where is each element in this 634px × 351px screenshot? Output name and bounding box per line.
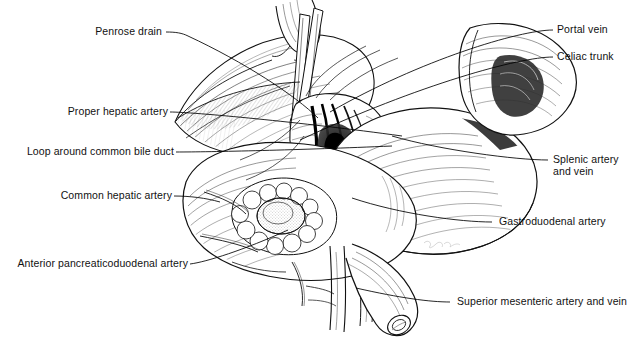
label-anterior-pancreaticoduodenal-artery-text: Anterior pancreaticoduodenal artery xyxy=(17,257,188,269)
label-penrose-drain-text: Penrose drain xyxy=(95,25,162,37)
label-common-hepatic-artery-text: Common hepatic artery xyxy=(61,189,172,201)
label-common-hepatic-artery: Common hepatic artery xyxy=(2,190,172,202)
label-proper-hepatic-artery-text: Proper hepatic artery xyxy=(68,105,168,117)
label-gastroduodenal-artery-text: Gastroduodenal artery xyxy=(499,215,606,227)
label-portal-vein-text: Portal vein xyxy=(557,23,608,35)
label-loop-around-common-bile-duct: Loop around common bile duct xyxy=(2,146,174,158)
label-anterior-pancreaticoduodenal-artery: Anterior pancreaticoduodenal artery xyxy=(2,258,188,270)
label-superior-mesenteric-artery-and-vein: Superior mesenteric artery and vein xyxy=(457,296,627,308)
label-celiac-trunk-text: Celiac trunk xyxy=(557,50,614,62)
label-splenic-artery-and-vein-text-line2: and vein xyxy=(553,166,619,178)
label-portal-vein: Portal vein xyxy=(557,24,608,36)
label-splenic-artery-and-vein: Splenic artery and vein xyxy=(553,154,619,177)
label-splenic-artery-and-vein-text: Splenic artery xyxy=(553,153,619,165)
label-gastroduodenal-artery: Gastroduodenal artery xyxy=(499,216,606,228)
label-penrose-drain: Penrose drain xyxy=(2,26,162,38)
label-proper-hepatic-artery: Proper hepatic artery xyxy=(2,106,168,118)
label-loop-around-common-bile-duct-text: Loop around common bile duct xyxy=(27,145,174,157)
label-superior-mesenteric-artery-and-vein-text: Superior mesenteric artery and vein xyxy=(457,295,627,307)
label-celiac-trunk: Celiac trunk xyxy=(557,51,614,63)
